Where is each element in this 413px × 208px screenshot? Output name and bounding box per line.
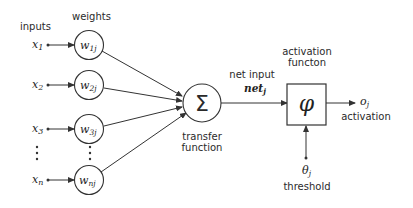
input-row-1: x1 w1j xyxy=(32,31,182,97)
input-x3: x3 xyxy=(32,122,43,136)
output-activation-label: activation xyxy=(341,111,391,122)
output-oj: oj xyxy=(360,95,370,109)
input-row-2: x2 w2j xyxy=(32,71,182,102)
inputs-label: inputs xyxy=(20,21,51,32)
transfer-label-1: transfer xyxy=(182,131,222,142)
input-xn: xn xyxy=(32,173,43,187)
threshold-label: threshold xyxy=(283,181,330,192)
weighted-connection-n xyxy=(101,113,186,172)
perceptron-diagram: inputs weights x1 w1j x2 w2j x3 w3j xyxy=(0,0,413,208)
ellipsis-weights xyxy=(89,146,91,160)
transfer-label-2: function xyxy=(182,142,223,153)
weighted-connection-3 xyxy=(104,107,182,126)
threshold-theta: θj xyxy=(302,164,312,178)
activation-function-label-2: functon xyxy=(288,57,326,68)
input-x2: x2 xyxy=(32,78,43,92)
ellipsis-inputs xyxy=(36,146,38,160)
weights-label: weights xyxy=(72,11,111,22)
phi-symbol: φ xyxy=(299,91,315,116)
input-x1: x1 xyxy=(32,38,43,52)
net-j-symbol: netj xyxy=(244,82,266,96)
activation-function-label-1: activation xyxy=(282,46,332,57)
sigma-symbol: Σ xyxy=(195,91,209,116)
input-row-3: x3 w3j xyxy=(32,107,182,144)
net-input-label: net input xyxy=(229,69,274,80)
